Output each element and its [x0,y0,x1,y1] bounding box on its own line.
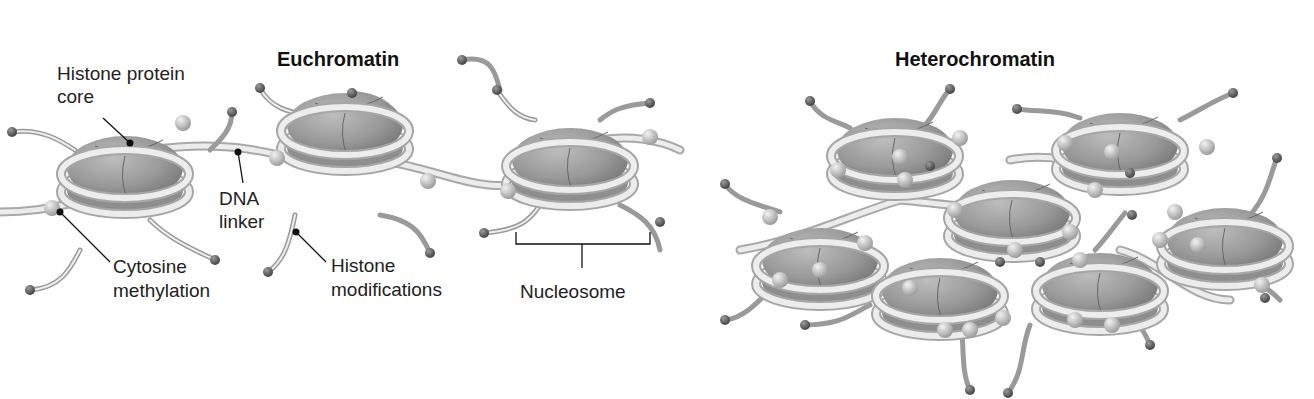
label-histone-core-line1: Histone protein [57,63,185,85]
label-histone-mod-line1: Histone [331,255,395,277]
heterochromatin-title: Heterochromatin [895,48,1055,71]
label-dna-linker-line2: linker [219,211,264,233]
label-cytosine-line2: methylation [113,280,210,302]
euchromatin-title: Euchromatin [277,48,399,71]
label-histone-mod-line2: modifications [331,279,442,301]
label-histone-core-line2: core [57,86,94,108]
label-cytosine-line1: Cytosine [113,256,187,278]
chromatin-illustration [0,0,1314,399]
heterochromatin-fiber [720,84,1289,398]
label-nucleosome: Nucleosome [520,281,626,303]
label-dna-linker-line1: DNA [219,188,259,210]
